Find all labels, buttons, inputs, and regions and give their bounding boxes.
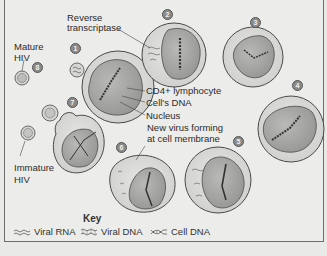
label-cells-dna: Cell's DNA — [146, 97, 192, 108]
step-number-7: 7 — [67, 97, 78, 108]
key-item-viral-dna: Viral DNA — [80, 226, 143, 237]
label-reverse-transcriptase-line2: transcriptase — [67, 22, 121, 33]
step-number-6: 6 — [116, 142, 127, 153]
step-number-8: 8 — [32, 62, 43, 73]
label-immature-hiv-line2: HIV — [14, 174, 30, 185]
label-nucleus: Nucleus — [146, 110, 180, 121]
key-title: Key — [83, 213, 101, 224]
immature-hiv-virion — [20, 126, 35, 156]
cell-step-6 — [110, 155, 175, 212]
label-mature-hiv-line1: Mature — [14, 41, 44, 52]
key-item-cell-dna: Cell DNA — [150, 226, 210, 237]
step-number-2: 2 — [162, 9, 173, 20]
label-mature-hiv-line2: HIV — [14, 52, 30, 63]
label-new-virus-line1: New virus forming — [147, 122, 223, 133]
cell-dna-icon — [150, 228, 168, 236]
key-label-viral-rna: Viral RNA — [34, 226, 76, 237]
label-new-virus-line2: at cell membrane — [147, 133, 220, 144]
cell-step-4 — [258, 96, 324, 162]
cell-step-2 — [142, 23, 206, 87]
cell-step-5 — [185, 147, 251, 213]
step-number-4: 4 — [292, 80, 303, 91]
step-number-1: 1 — [70, 43, 81, 54]
mature-hiv-virion — [15, 60, 29, 85]
viral-rna-icon — [13, 228, 31, 236]
label-cd4-lymphocyte: CD4+ lymphocyte — [146, 85, 221, 96]
cell-step-3 — [223, 27, 283, 87]
key-label-cell-dna: Cell DNA — [171, 226, 210, 237]
label-immature-hiv-line1: Immature — [14, 162, 54, 173]
key-item-viral-rna: Viral RNA — [13, 226, 76, 237]
step-number-3: 3 — [250, 17, 261, 28]
key-label-viral-dna: Viral DNA — [101, 226, 143, 237]
cell-step-1 — [70, 51, 154, 123]
step-number-5: 5 — [233, 136, 244, 147]
viral-dna-icon — [80, 228, 98, 236]
